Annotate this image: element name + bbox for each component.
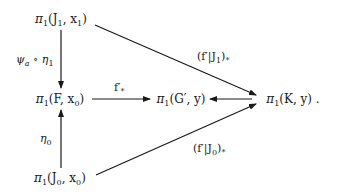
subscript: 0 [47,138,52,147]
arrow-j0-to-k [96,104,256,175]
node-text: , x [63,12,77,26]
label-text: ψ [16,53,25,66]
subscript: * [225,56,229,65]
pi-symbol: π [266,92,274,106]
node-text: ) [81,171,86,185]
node-pi-f-x0: π1(F, x0) [36,93,84,108]
node-text: ) [82,12,87,26]
subscript: 1 [48,59,53,68]
node-text: ) [79,92,84,106]
label-text: (f′|J [193,142,212,155]
node-text: (K, y) [279,92,312,106]
label-text: f′ [114,81,121,94]
node-pi-g-prime-y: π1(G′, y) [156,93,205,108]
node-pi-j1-x1: π1(J1, x1) [35,13,87,28]
node-text: (F, x [49,92,75,106]
label-eta0: η0 [40,133,52,147]
label-psi-a-circ-eta1: ψa ∘ η1 [16,54,54,68]
node-text: , x [62,171,76,185]
pi-symbol: π [156,92,164,106]
label-text: η [40,132,47,145]
label-text: (f′|J [197,50,216,63]
subscript: * [221,148,225,157]
trailing-period: . [312,92,320,106]
label-f-prime-star: f′* [114,82,125,96]
pi-symbol: π [34,171,42,185]
compose-operator: ∘ [29,53,41,66]
label-f-prime-restrict-j1-star: (f′|J1)* [197,51,229,65]
node-pi-j0-x0: π1(J0, x0) [34,172,86,187]
node-text: (G′, y) [169,92,205,106]
subscript: * [121,87,125,96]
label-f-prime-restrict-j0-star: (f′|J0)* [193,143,225,157]
node-pi-k-y: π1(K, y) . [266,93,319,108]
pi-symbol: π [35,12,43,26]
pi-symbol: π [36,92,44,106]
